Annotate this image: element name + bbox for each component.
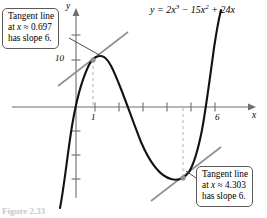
callout-tangent-upper: Tangent line at x ≈ 0.697 has slope 6. [2, 8, 59, 49]
x-tick-label-1: 1 [91, 112, 96, 122]
callout-upper-line2-pre: at [8, 22, 17, 32]
tangency-point-lower [180, 175, 185, 180]
callout-lower-line2-post: ≈ 4.303 [215, 180, 246, 190]
callout-upper-line2: at x ≈ 0.697 [8, 22, 54, 33]
callout-leaders [69, 38, 196, 178]
callout-lower-line2: at x ≈ 4.303 [202, 180, 248, 191]
callout-lower-line3: has slope 6. [202, 191, 248, 202]
y-tick-label-10: 10 [55, 53, 64, 63]
figure-caption: Figure 2.33 [2, 206, 45, 216]
x-tick-label-6: 6 [215, 112, 220, 122]
callout-lower-line1: Tangent line [202, 169, 248, 180]
x-axis [12, 103, 256, 112]
callout-upper-line3: has slope 6. [8, 33, 54, 44]
equation-lhs: y = 2x [150, 4, 176, 15]
tangent-line-figure: y = 2x3 − 15x2 + 24x y x 1 6 10 Tangent … [0, 0, 267, 218]
callout-upper-line1: Tangent line [8, 11, 54, 22]
tangency-point-upper [90, 57, 95, 62]
callout-upper-line2-post: ≈ 0.697 [21, 22, 52, 32]
dashed-guides [93, 60, 183, 177]
equation-rhs: + 24x [209, 4, 235, 15]
callout-lower-line2-pre: at [202, 180, 211, 190]
y-axis-label: y [66, 1, 70, 11]
equation-label: y = 2x3 − 15x2 + 24x [150, 3, 235, 15]
leader-line-upper [69, 38, 103, 57]
equation-mid: − 15x [179, 4, 205, 15]
x-axis-label: x [252, 110, 256, 120]
tangency-points [90, 57, 185, 180]
callout-tangent-lower: Tangent line at x ≈ 4.303 has slope 6. [196, 166, 253, 207]
